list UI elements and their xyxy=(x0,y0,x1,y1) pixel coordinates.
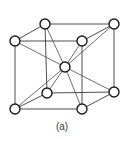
body-diagonal xyxy=(45,24,65,67)
cube-edge xyxy=(47,92,114,93)
atom-back-bottom-right xyxy=(109,87,119,97)
atom-back-top-left xyxy=(40,19,50,29)
atom-front-bottom-right xyxy=(77,104,87,114)
atom-body-center xyxy=(60,62,70,72)
atom-front-bottom-left xyxy=(10,104,20,114)
atom-back-top-right xyxy=(109,19,119,29)
body-diagonal xyxy=(65,67,114,92)
body-diagonal xyxy=(65,24,114,67)
body-diagonal xyxy=(15,41,65,67)
atom-front-top-right xyxy=(77,36,87,46)
figure-caption: (a) xyxy=(0,121,124,132)
body-diagonal xyxy=(15,67,65,109)
atom-back-bottom-left xyxy=(42,88,52,98)
bcc-unit-cell-diagram xyxy=(0,0,124,141)
atom-front-top-left xyxy=(10,36,20,46)
body-diagonal xyxy=(65,67,82,109)
